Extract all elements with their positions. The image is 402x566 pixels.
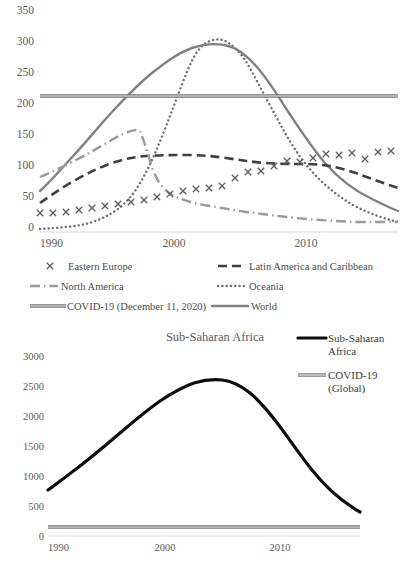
y-tick-label: 3000 bbox=[23, 351, 44, 362]
top-chart: 350 300 250 200 150 100 50 0 bbox=[0, 0, 402, 325]
y-tick-label: 2500 bbox=[23, 381, 44, 392]
y-tick-label: 1000 bbox=[23, 471, 44, 482]
bottom-chart-legend: Sub-Saharan Africa COVID-19 (Global) bbox=[298, 332, 385, 395]
legend-item-covid19[interactable]: COVID-19 (December 11, 2020) bbox=[30, 301, 206, 313]
x-tick-label: 1990 bbox=[40, 237, 63, 249]
legend-label-line2: Africa bbox=[328, 345, 356, 357]
legend-label-line2: (Global) bbox=[328, 382, 366, 395]
top-x-axis: 1990 2000 2010 bbox=[40, 237, 318, 249]
top-chart-legend: Eastern Europe Latin America and Caribbe… bbox=[30, 261, 374, 313]
legend-label: Oceania bbox=[249, 281, 284, 292]
legend-label: World bbox=[251, 301, 278, 312]
bottom-chart: Sub-Saharan Africa 300025002000150010005… bbox=[0, 325, 402, 566]
series-sub-saharan-africa-line bbox=[48, 380, 360, 512]
y-tick-label: 250 bbox=[17, 66, 35, 78]
x-tick-label: 2010 bbox=[295, 237, 318, 249]
series-latin-america-line bbox=[40, 155, 398, 203]
y-tick-label: 1500 bbox=[23, 441, 44, 452]
y-tick-label: 200 bbox=[17, 97, 35, 109]
x-tick-label: 1990 bbox=[48, 542, 69, 553]
legend-label: COVID-19 (December 11, 2020) bbox=[67, 301, 206, 313]
top-y-axis: 350 300 250 200 150 100 50 0 bbox=[17, 4, 35, 233]
legend-label-line1: COVID-19 bbox=[328, 369, 378, 381]
y-tick-label: 100 bbox=[17, 159, 35, 171]
legend-label: Latin America and Caribbean bbox=[249, 261, 374, 272]
y-tick-label: 0 bbox=[39, 531, 44, 542]
legend-item-sub-saharan-africa[interactable]: Sub-Saharan Africa bbox=[298, 332, 385, 357]
bottom-chart-title: Sub-Saharan Africa bbox=[166, 330, 265, 344]
y-tick-label: 500 bbox=[28, 501, 44, 512]
y-tick-label: 300 bbox=[17, 35, 35, 47]
series-world-line bbox=[40, 44, 398, 211]
figure-container: 350 300 250 200 150 100 50 0 bbox=[0, 0, 402, 566]
legend-item-north-america[interactable]: North America bbox=[30, 281, 124, 292]
x-tick-label: 2010 bbox=[270, 542, 291, 553]
x-tick-label: 2000 bbox=[155, 542, 176, 553]
bottom-y-axis: 300025002000150010005000 bbox=[23, 351, 44, 542]
legend-item-covid19-global[interactable]: COVID-19 (Global) bbox=[298, 369, 378, 395]
legend-label-line1: Sub-Saharan bbox=[328, 332, 385, 344]
x-tick-label: 2000 bbox=[163, 237, 186, 249]
legend-item-world[interactable]: World bbox=[212, 301, 278, 312]
y-tick-label: 2000 bbox=[23, 411, 44, 422]
y-tick-label: 0 bbox=[28, 221, 34, 233]
bottom-x-axis: 1990 2000 2010 bbox=[48, 542, 291, 553]
bottom-chart-svg: Sub-Saharan Africa 300025002000150010005… bbox=[0, 325, 402, 566]
top-chart-svg: 350 300 250 200 150 100 50 0 bbox=[0, 0, 402, 325]
x-marker-icon bbox=[47, 263, 53, 269]
series-north-america-line bbox=[40, 130, 398, 222]
legend-item-latin-america[interactable]: Latin America and Caribbean bbox=[218, 261, 374, 272]
y-tick-label: 350 bbox=[17, 4, 35, 16]
legend-item-eastern-europe[interactable]: Eastern Europe bbox=[47, 261, 133, 272]
legend-item-oceania[interactable]: Oceania bbox=[218, 281, 284, 292]
legend-label: North America bbox=[61, 281, 124, 292]
y-tick-label: 50 bbox=[23, 190, 35, 202]
y-tick-label: 150 bbox=[17, 128, 35, 140]
legend-label: Eastern Europe bbox=[68, 261, 133, 272]
